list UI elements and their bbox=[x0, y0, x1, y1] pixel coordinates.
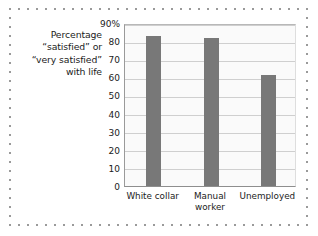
bar bbox=[261, 75, 276, 186]
figure-border-bottom bbox=[9, 224, 308, 226]
y-axis-tick-labels: 0102030405060708090% bbox=[88, 24, 120, 187]
y-axis-tick-label: 10 bbox=[90, 164, 120, 174]
x-axis-tick-label-line: Unemployed bbox=[227, 191, 307, 202]
y-axis-tick-label: 30 bbox=[90, 128, 120, 138]
y-axis-tick-label: 40 bbox=[90, 110, 120, 120]
y-axis-tick-label: 50 bbox=[90, 91, 120, 101]
bar bbox=[146, 36, 161, 186]
y-axis-tick-label: 20 bbox=[90, 146, 120, 156]
x-axis-tick-label: Unemployed bbox=[227, 191, 307, 202]
y-axis-tick-label: 90% bbox=[90, 19, 120, 29]
figure: Percentage “satisfied” or “very satisfie… bbox=[0, 0, 318, 236]
y-axis-tick-label: 80 bbox=[90, 37, 120, 47]
y-axis-tick-label: 70 bbox=[90, 55, 120, 65]
gridline bbox=[125, 25, 295, 26]
bar bbox=[204, 38, 219, 186]
figure-border-top bbox=[9, 8, 308, 10]
x-axis-tick-label-line: worker bbox=[170, 202, 250, 213]
y-axis-tick-label: 60 bbox=[90, 73, 120, 83]
plot-area bbox=[124, 24, 296, 187]
figure-border-left bbox=[9, 8, 11, 226]
